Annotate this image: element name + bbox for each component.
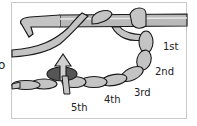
label-3rd: 3rd bbox=[134, 88, 151, 98]
label-5th: 5th bbox=[71, 103, 88, 113]
crochet-chain-illustration bbox=[0, 0, 197, 126]
label-4th: 4th bbox=[104, 95, 121, 105]
label-1st: 1st bbox=[163, 42, 179, 52]
label-2nd: 2nd bbox=[155, 67, 174, 77]
